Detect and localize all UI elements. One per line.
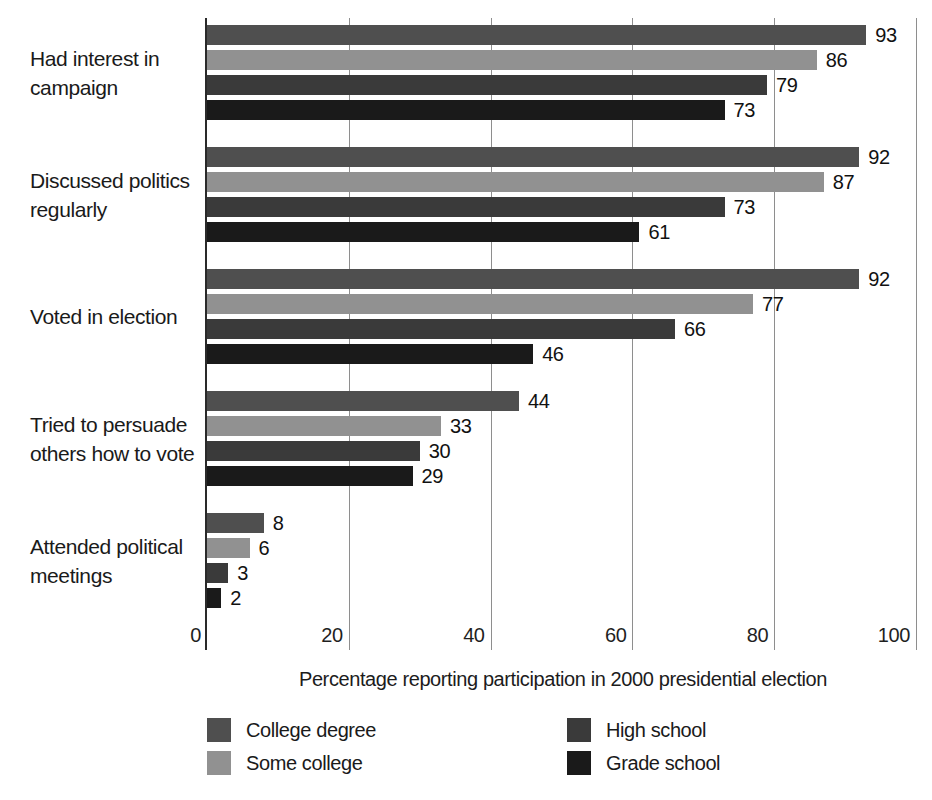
x-tick-label-60: 60	[568, 624, 626, 647]
bar-value-label: 3	[237, 563, 248, 583]
bar	[207, 416, 441, 436]
bar-value-label: 2	[230, 588, 241, 608]
bar-value-label: 73	[734, 100, 755, 120]
bar-value-label: 93	[875, 25, 896, 45]
bar	[207, 391, 519, 411]
bar	[207, 538, 250, 558]
bar	[207, 563, 228, 583]
bar	[207, 147, 859, 167]
bar-value-label: 86	[826, 50, 847, 70]
legend-swatch	[207, 751, 231, 775]
bar-value-label: 79	[776, 75, 797, 95]
bar-value-label: 33	[450, 416, 471, 436]
x-tick-label-40: 40	[427, 624, 485, 647]
bar-value-label: 29	[422, 466, 443, 486]
bar	[207, 172, 824, 192]
category-label: Had interest in campaign	[30, 25, 208, 120]
bar	[207, 319, 675, 339]
bar	[207, 50, 817, 70]
bar-value-label: 92	[868, 269, 889, 289]
bar	[207, 441, 420, 461]
x-axis-title: Percentage reporting participation in 20…	[207, 668, 919, 691]
bar	[207, 100, 725, 120]
bar-value-label: 44	[528, 391, 549, 411]
bar	[207, 294, 753, 314]
x-tick-label-20: 20	[285, 624, 343, 647]
x-tick-label-80: 80	[710, 624, 768, 647]
gridline-80	[774, 18, 775, 650]
bar-value-label: 6	[259, 538, 270, 558]
category-label: Attended political meetings	[30, 513, 208, 608]
bar-value-label: 87	[833, 172, 854, 192]
legend-swatch	[207, 718, 231, 742]
bar	[207, 513, 264, 533]
bar-value-label: 92	[868, 147, 889, 167]
bar	[207, 197, 725, 217]
bar-value-label: 73	[734, 197, 755, 217]
legend-swatch	[567, 751, 591, 775]
bar	[207, 25, 866, 45]
bar-value-label: 46	[542, 344, 563, 364]
category-label: Discussed politics regularly	[30, 147, 208, 242]
bar	[207, 466, 413, 486]
legend-label: Some college	[246, 751, 362, 775]
legend-swatch	[567, 718, 591, 742]
legend-label: College degree	[246, 718, 376, 742]
bar-value-label: 77	[762, 294, 783, 314]
bar	[207, 269, 859, 289]
x-tick-label-100: 100	[852, 624, 910, 647]
bar-chart-figure: 938679739287736192776646443330298632 Had…	[0, 0, 932, 800]
bar-value-label: 66	[684, 319, 705, 339]
bar-value-label: 61	[648, 222, 669, 242]
legend-label: Grade school	[606, 751, 720, 775]
bar	[207, 344, 533, 364]
bar-value-label: 30	[429, 441, 450, 461]
category-label: Tried to persuade others how to vote	[30, 391, 208, 486]
bar	[207, 75, 767, 95]
category-label: Voted in election	[30, 269, 208, 364]
legend-label: High school	[606, 718, 706, 742]
bar-value-label: 8	[273, 513, 284, 533]
x-tick-label-0: 0	[143, 624, 201, 647]
bar	[207, 588, 221, 608]
gridline-100	[916, 18, 917, 650]
bar	[207, 222, 639, 242]
